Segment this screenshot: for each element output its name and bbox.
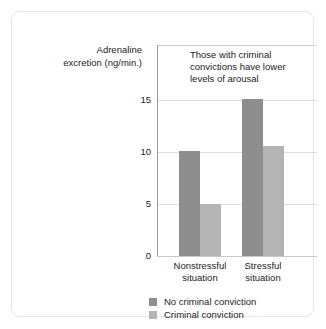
chart-card: Adrenaline excretion (ng/min.) 15 10 5 0… [11,11,314,317]
y-tick-label-10: 10 [121,146,151,157]
y-axis-line [157,45,158,257]
gridline-15 [158,100,317,101]
bar-stressful-conviction [263,146,284,256]
legend-label: No criminal conviction [164,296,256,307]
y-axis-title-line-2: excretion (ng/min.) [18,57,142,70]
y-tick-label-0: 0 [121,250,151,261]
y-tick-label-15: 15 [121,94,151,105]
legend-item-no-criminal-conviction: No criminal conviction [149,295,256,308]
category-line-1: Stressful [221,260,305,272]
annotation-line-2: convictions have lower [190,61,310,73]
x-axis-baseline [157,256,317,257]
legend-label: Criminal conviction [164,309,244,320]
y-axis-title: Adrenaline excretion (ng/min.) [18,44,142,69]
bar-nonstressful-conviction [200,204,221,256]
category-line-2: situation [221,272,305,284]
legend-swatch-icon [149,298,157,306]
bar-stressful-no-conviction [242,99,263,256]
chart-annotation: Those with criminal convictions have low… [190,49,310,86]
annotation-line-1: Those with criminal [190,49,310,61]
y-axis-title-line-1: Adrenaline [18,44,142,57]
annotation-line-3: levels of arousal [190,73,310,85]
x-category-label-stressful: Stressful situation [221,260,305,284]
bar-nonstressful-no-conviction [179,151,200,256]
plot-area: 15 10 5 0 Those with criminal conviction… [157,45,317,257]
y-tick-label-5: 5 [121,198,151,209]
chart-legend: No criminal conviction Criminal convicti… [149,295,256,321]
legend-swatch-icon [149,311,157,319]
legend-item-criminal-conviction: Criminal conviction [149,308,256,321]
plot-top-rule [157,45,317,46]
